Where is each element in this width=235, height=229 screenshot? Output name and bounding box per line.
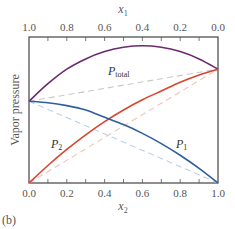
panel-label: (b) xyxy=(2,213,16,227)
top-tick-label: 0.0 xyxy=(211,21,225,33)
bottom-axis-title: x2 xyxy=(117,199,127,215)
series-ideal-p2-raoult- xyxy=(29,69,218,183)
top-tick-label: 1.0 xyxy=(22,21,36,33)
top-tick-label: 0.8 xyxy=(60,21,74,33)
p2-label: P2 xyxy=(50,137,62,152)
p-total-label: Ptotal xyxy=(107,64,130,79)
bottom-axis-tick-labels: 0.00.20.40.60.81.0 xyxy=(22,187,225,199)
series-layer xyxy=(29,46,218,183)
p1-label: P1 xyxy=(175,137,187,152)
bottom-tick-label: 0.4 xyxy=(98,187,112,199)
vapor-pressure-chart: x1 1.00.80.60.40.20.0 Ptotal P2 P1 Vapor… xyxy=(0,0,235,229)
top-tick-label: 0.4 xyxy=(136,21,150,33)
bottom-tick-label: 0.2 xyxy=(60,187,74,199)
top-tick-label: 0.6 xyxy=(98,21,112,33)
bottom-tick-label: 0.0 xyxy=(22,187,36,199)
top-tick-label: 0.2 xyxy=(173,21,187,33)
y-axis-title: Vapor pressure xyxy=(8,74,22,146)
top-axis-tick-labels: 1.00.80.60.40.20.0 xyxy=(22,21,225,33)
top-axis-title: x1 xyxy=(117,2,127,18)
bottom-tick-label: 0.8 xyxy=(173,187,187,199)
bottom-tick-label: 0.6 xyxy=(136,187,150,199)
bottom-tick-label: 1.0 xyxy=(211,187,225,199)
